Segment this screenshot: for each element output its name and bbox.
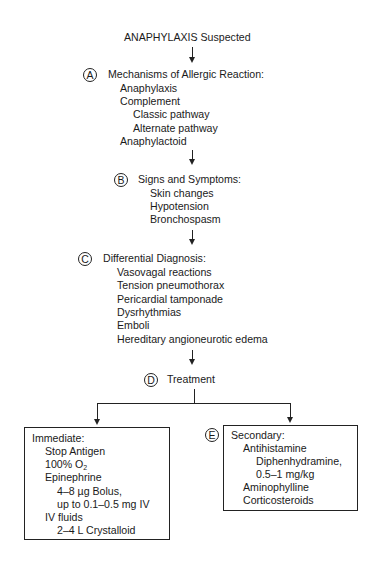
step-a-subitem: Alternate pathway <box>133 122 218 135</box>
step-a-badge: A <box>83 68 97 82</box>
branch-right <box>290 403 291 418</box>
step-c-item: Tension pneumothorax <box>117 279 224 292</box>
immediate-item: Epinephrine <box>45 471 102 484</box>
secondary-item: Corticosteroids <box>243 494 314 507</box>
step-e-badge: E <box>205 428 219 442</box>
oxygen-label: 100% O <box>45 458 83 470</box>
step-c-item: Pericardial tamponade <box>117 293 223 306</box>
title: ANAPHYLAXIS Suspected <box>124 31 251 44</box>
immediate-item-oxygen: 100% O2 <box>45 458 87 471</box>
step-b-item: Bronchospasm <box>150 213 221 226</box>
step-a-item: Complement <box>120 95 180 108</box>
arrow-head-icon <box>189 239 195 245</box>
branch-stem <box>194 389 195 403</box>
immediate-subitem: 2–4 L Crystalloid <box>57 524 136 537</box>
branch-left <box>97 403 98 420</box>
step-c-heading: Differential Diagnosis: <box>103 252 206 265</box>
step-c-item: Dysrhythmias <box>117 306 181 319</box>
oxygen-subscript: 2 <box>83 464 87 471</box>
step-c-item: Hereditary angioneurotic edema <box>117 333 268 346</box>
step-d-heading: Treatment <box>167 373 215 386</box>
step-b-heading: Signs and Symptoms: <box>138 173 241 186</box>
arrow-head-icon <box>94 419 100 425</box>
step-a-subitem: Classic pathway <box>133 108 210 121</box>
immediate-item: Stop Antigen <box>45 445 105 458</box>
branch-bar <box>97 403 291 404</box>
step-c-item: Emboli <box>117 319 149 332</box>
step-b-item: Skin changes <box>150 187 214 200</box>
arrow-head-icon <box>189 57 195 63</box>
step-b-item: Hypotension <box>150 200 209 213</box>
immediate-subitem: 4–8 µg Bolus, <box>57 485 122 498</box>
secondary-subitem: 0.5–1 mg/kg <box>256 468 314 481</box>
step-a-item: Anaphylaxis <box>120 82 177 95</box>
step-a-item: Anaphylactoid <box>120 135 187 148</box>
immediate-item: IV fluids <box>45 511 83 524</box>
arrow-head-icon <box>287 417 293 423</box>
step-a-heading: Mechanisms of Allergic Reaction: <box>108 68 264 81</box>
arrow-head-icon <box>189 159 195 165</box>
step-b-badge: B <box>114 173 128 187</box>
immediate-subitem: up to 0.1–0.5 mg IV <box>57 498 149 511</box>
step-c-item: Vasovagal reactions <box>117 266 212 279</box>
secondary-subitem: Diphenhydramine, <box>256 455 342 468</box>
secondary-item: Aminophylline <box>243 481 309 494</box>
step-d-badge: D <box>144 373 158 387</box>
arrow-head-icon <box>189 359 195 365</box>
step-c-badge: C <box>78 252 92 266</box>
secondary-heading: Secondary: <box>231 429 285 442</box>
secondary-item: Antihistamine <box>243 442 307 455</box>
immediate-heading: Immediate: <box>32 432 84 445</box>
